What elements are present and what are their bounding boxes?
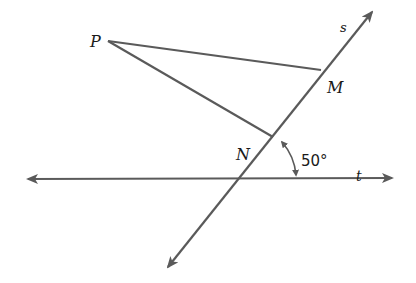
segment-pn: [108, 41, 273, 137]
angle-arc: [282, 142, 296, 175]
line-t: [28, 178, 392, 179]
point-label-p: P: [89, 32, 101, 51]
line-s: [168, 12, 372, 267]
line-label-s: s: [340, 20, 347, 35]
angle-label: 50°: [301, 152, 328, 170]
line-label-t: t: [356, 168, 362, 184]
point-label-n: N: [235, 145, 251, 164]
segment-pm: [108, 41, 321, 70]
point-label-m: M: [326, 78, 344, 97]
geometry-diagram: P M N s t 50°: [0, 0, 416, 283]
